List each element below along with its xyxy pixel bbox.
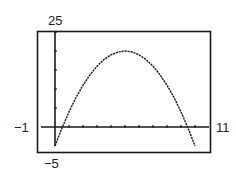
axes [41, 32, 209, 146]
viewing-window-frame [38, 32, 211, 153]
calculator-graph [0, 0, 236, 178]
parabola-curve [55, 51, 195, 146]
